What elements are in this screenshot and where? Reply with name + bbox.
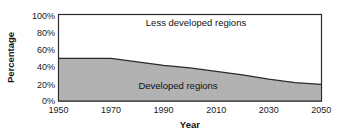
- xtick-label-2050: 2050: [311, 105, 331, 115]
- ytick-label-100: 100%: [32, 11, 55, 21]
- ytick-label-60: 60%: [37, 45, 55, 55]
- ytick-label-80: 80%: [37, 28, 55, 38]
- chart-container: 100% 80% 60% 40% 20% 0% 1950 1970 1990 2…: [0, 0, 339, 136]
- xtick-label-1990: 1990: [154, 105, 174, 115]
- xtick-label-1970: 1970: [101, 105, 121, 115]
- xtick-label-1950: 1950: [48, 105, 68, 115]
- ytick-label-40: 40%: [37, 62, 55, 72]
- annotation-less-developed-regions: Less developed regions: [146, 17, 247, 28]
- xtick-label-2030: 2030: [259, 105, 279, 115]
- xtick-label-2010: 2010: [206, 105, 226, 115]
- area-chart-figure: 100% 80% 60% 40% 20% 0% 1950 1970 1990 2…: [0, 0, 339, 136]
- ytick-label-20: 20%: [37, 80, 55, 90]
- annotation-developed-regions: Developed regions: [138, 80, 217, 91]
- x-axis-title: Year: [180, 119, 200, 130]
- y-axis-title: Percentage: [5, 32, 16, 83]
